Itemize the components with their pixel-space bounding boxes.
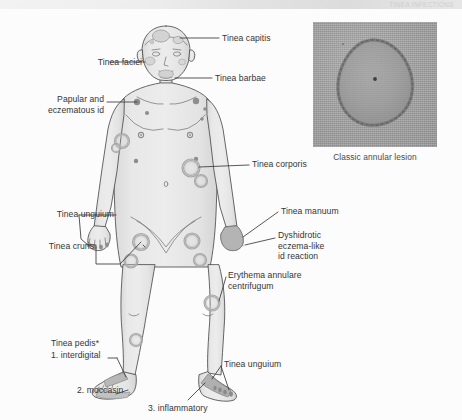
label-papular-eczematous-id: Papular and eczematous id: [26, 94, 104, 115]
label-tinea-cruris: Tinea cruris: [22, 241, 94, 252]
label-tinea-capitis: Tinea capitis: [222, 33, 318, 44]
label-dyshidrotic-eczema: Dyshidrotic eczema-like id reaction: [278, 230, 366, 262]
label-tinea-faciei: Tinea faciei: [40, 57, 142, 68]
label-tinea-manuum: Tinea manuum: [281, 206, 377, 217]
label-tinea-unguium-hand: Tinea unguium: [26, 209, 114, 220]
label-pedis-inflammatory: 3. inflammatory: [148, 403, 244, 414]
label-tinea-corporis: Tinea corporis: [252, 159, 348, 170]
label-tinea-pedis: Tinea pedis*: [51, 338, 131, 349]
label-pedis-moccasin: 2. moccasin: [77, 385, 157, 396]
illustration-plate: Classic annular lesion Tinea capitis Tin…: [0, 9, 462, 420]
label-tinea-barbae: Tinea barbae: [215, 73, 311, 84]
running-header-bar: TINEA INFECTIONS: [0, 0, 462, 9]
label-erythema-annulare: Erythema annulare centrifugum: [228, 270, 338, 291]
figure-page: TINEA INFECTIONS: [0, 0, 462, 420]
label-tinea-unguium-foot: Tinea unguium: [224, 359, 320, 370]
lesion-group-beard: [159, 70, 174, 78]
photo-lesion-overlay: [313, 22, 437, 147]
leader-tinea-manuum: [243, 212, 278, 237]
clinical-photo-annular-lesion: [313, 22, 437, 147]
label-pedis-interdigital: 1. interdigital: [51, 350, 131, 361]
leader-dyshidrotic: [245, 238, 275, 245]
running-header-text: TINEA INFECTIONS: [389, 0, 454, 9]
lesion-group-hand-right: [221, 226, 243, 251]
